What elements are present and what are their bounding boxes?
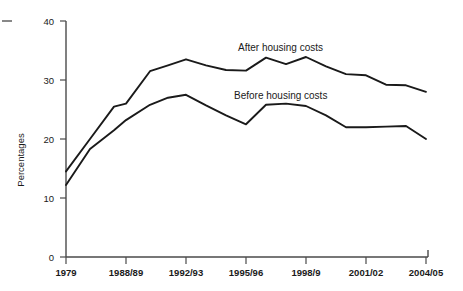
y-tick-label-30: 30 (43, 75, 54, 86)
chart-svg: 40 30 20 10 0 Percentages 1979 1988/89 1… (0, 0, 463, 291)
y-axis-tick-labels: 40 30 20 10 0 (43, 16, 54, 263)
y-tick-label-40: 40 (43, 16, 54, 27)
x-tick-label-2004-05: 2004/05 (409, 267, 444, 278)
after-housing-costs-label: After housing costs (238, 42, 323, 53)
x-tick-label-1995-96: 1995/96 (229, 267, 263, 278)
line-chart: 40 30 20 10 0 Percentages 1979 1988/89 1… (0, 0, 463, 291)
series-line-before-housing-costs (66, 95, 426, 185)
x-tick-label-2001-02: 2001/02 (349, 267, 383, 278)
x-axis-tick-labels: 1979 1988/89 1992/93 1995/96 1998/9 2001… (55, 267, 443, 278)
y-axis-ticks (60, 21, 66, 257)
x-tick-label-1998-9: 1998/9 (291, 267, 320, 278)
y-tick-label-0: 0 (49, 252, 54, 263)
y-axis-title: Percentages (15, 133, 26, 187)
before-housing-costs-label: Before housing costs (234, 90, 327, 101)
x-tick-label-1988-89: 1988/89 (109, 267, 143, 278)
y-tick-label-10: 10 (43, 193, 54, 204)
x-axis-ticks (66, 257, 426, 264)
series-line-after-housing-costs (66, 57, 426, 171)
x-tick-label-1979: 1979 (55, 267, 76, 278)
x-tick-label-1992-93: 1992/93 (169, 267, 203, 278)
y-tick-label-20: 20 (43, 134, 54, 145)
